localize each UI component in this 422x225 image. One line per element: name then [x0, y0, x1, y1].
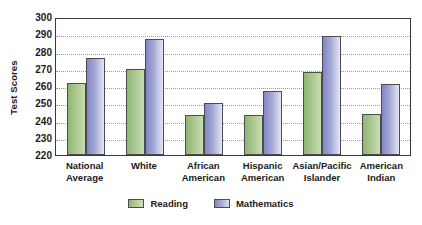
x-axis-label-line: Average [55, 172, 114, 184]
x-axis-label: HispanicAmerican [233, 160, 292, 194]
x-axis-label-line: American [233, 172, 292, 184]
bar-group [185, 19, 223, 155]
bar-mathematics-national-average [86, 58, 105, 155]
y-axis-tick-label: 300 [35, 13, 52, 23]
x-axis-label-line: Asian/Pacific [292, 160, 351, 172]
y-axis-tick-label: 250 [35, 99, 52, 109]
y-axis-title: Test Scores [2, 0, 24, 175]
y-axis-tick-label: 270 [35, 65, 52, 75]
legend-swatch-reading [128, 199, 144, 208]
bar-reading-asian-pacific-islander [303, 72, 322, 155]
bar-reading-african-american [185, 115, 204, 155]
legend-label: Reading [150, 198, 187, 209]
x-axis-label-line: White [114, 160, 173, 172]
bar-mathematics-american-indian [381, 84, 400, 155]
legend-swatch-math [214, 199, 230, 208]
y-axis-title-text: Test Scores [8, 60, 19, 114]
bar-group [303, 19, 341, 155]
y-axis-tick-label: 230 [35, 134, 52, 144]
bar-reading-national-average [67, 83, 86, 155]
legend-label: Mathematics [236, 198, 294, 209]
bar-reading-hispanic-american [244, 115, 263, 155]
bar-mathematics-hispanic-american [263, 91, 282, 155]
plot-area [55, 18, 411, 156]
bar-group [362, 19, 400, 155]
y-axis-tick-label: 220 [35, 151, 52, 161]
x-axis-label-line: American [352, 160, 411, 172]
y-axis-tick-label: 290 [35, 30, 52, 40]
x-axis-label: NationalAverage [55, 160, 114, 194]
x-axis-label-line: National [55, 160, 114, 172]
y-axis-tick-label: 240 [35, 117, 52, 127]
x-axis-label: White [114, 160, 173, 194]
x-axis-label: AfricanAmerican [174, 160, 233, 194]
bar-group [67, 19, 105, 155]
legend-item-reading[interactable]: Reading [128, 198, 187, 209]
x-axis-label-line: Indian [352, 172, 411, 184]
bar-mathematics-african-american [204, 103, 223, 155]
bars-layer [56, 19, 410, 155]
y-axis-tick-labels: 300290280270260250240230220 [24, 18, 52, 156]
x-axis-label-line: Hispanic [233, 160, 292, 172]
x-axis-category-labels: NationalAverageWhiteAfricanAmericanHispa… [55, 160, 411, 194]
x-axis-label-line: American [174, 172, 233, 184]
x-axis-label-line: African [174, 160, 233, 172]
bar-reading-american-indian [362, 114, 381, 155]
x-axis-label: Asian/PacificIslander [292, 160, 351, 194]
bar-mathematics-white [145, 39, 164, 155]
y-axis-tick-label: 280 [35, 48, 52, 58]
legend-item-math[interactable]: Mathematics [214, 198, 294, 209]
y-axis-tick-label: 260 [35, 82, 52, 92]
x-axis-label-line: Islander [292, 172, 351, 184]
x-axis-label: AmericanIndian [352, 160, 411, 194]
bar-group [126, 19, 164, 155]
bar-chart: Test Scores 300290280270260250240230220 … [0, 0, 422, 225]
chart-legend: ReadingMathematics [0, 198, 422, 209]
bar-group [244, 19, 282, 155]
bar-reading-white [126, 69, 145, 155]
bar-mathematics-asian-pacific-islander [322, 36, 341, 155]
